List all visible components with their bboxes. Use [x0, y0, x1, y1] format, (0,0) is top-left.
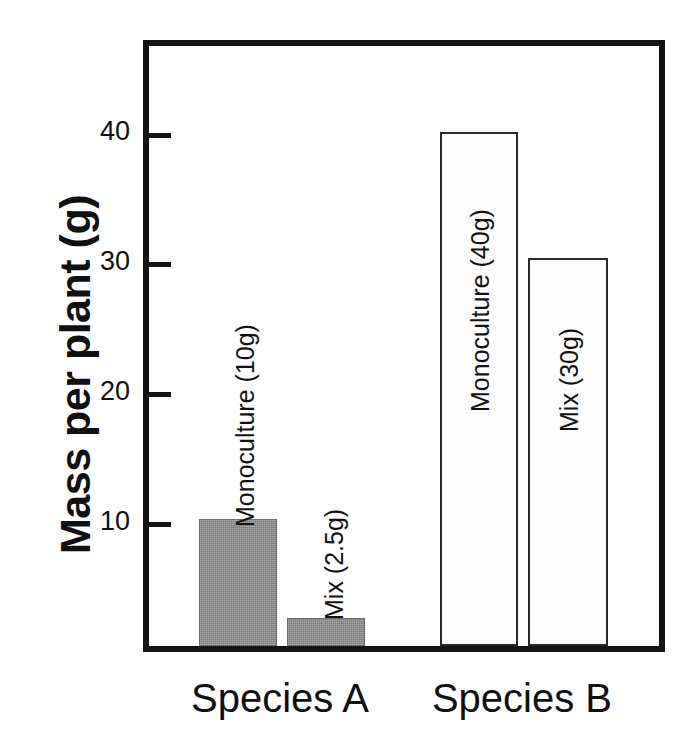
- y-tick-mark-30: [149, 262, 171, 267]
- y-tick-label-10: 10: [74, 508, 130, 535]
- bar-annotation-species-a-mix: Mix (2.5g): [322, 509, 347, 620]
- y-tick-mark-20: [149, 392, 171, 397]
- bar-chart: Mass per plant (g) 40 30 20 10 Monocultu…: [0, 0, 683, 744]
- category-label-species-a: Species A: [170, 676, 390, 721]
- bar-species-b-mix[interactable]: [528, 258, 608, 646]
- y-tick-label-group: 40 30 20 10: [74, 0, 130, 744]
- bar-annotation-species-a-monoculture: Monoculture (10g): [233, 324, 258, 527]
- bar-species-a-mix[interactable]: [287, 618, 365, 646]
- category-label-species-b: Species B: [412, 676, 632, 721]
- y-tick-label-20: 20: [74, 378, 130, 405]
- y-tick-label-40: 40: [74, 118, 130, 145]
- bar-annotation-species-b-mix: Mix (30g): [557, 328, 582, 432]
- y-tick-label-30: 30: [74, 248, 130, 275]
- bar-annotation-species-b-monoculture: Monoculture (40g): [468, 209, 493, 412]
- y-tick-mark-40: [149, 133, 171, 138]
- y-tick-mark-10: [149, 522, 171, 527]
- bar-species-a-monoculture[interactable]: [199, 519, 277, 646]
- plot-area: [143, 40, 665, 652]
